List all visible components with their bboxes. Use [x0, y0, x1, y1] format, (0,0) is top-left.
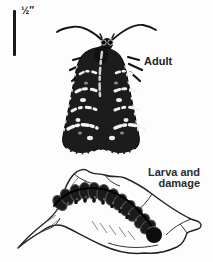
- insect-lifecycle-figure: ½″: [0, 0, 213, 262]
- moth-wings: [63, 46, 144, 154]
- larva-damage-label: Larva and damage: [148, 167, 200, 189]
- adult-moth-illustration: [50, 8, 162, 160]
- larva-label-line2: damage: [148, 178, 200, 189]
- scale-bar: [13, 10, 16, 56]
- adult-label: Adult: [144, 55, 172, 67]
- scale-bar-label: ½″: [21, 5, 34, 16]
